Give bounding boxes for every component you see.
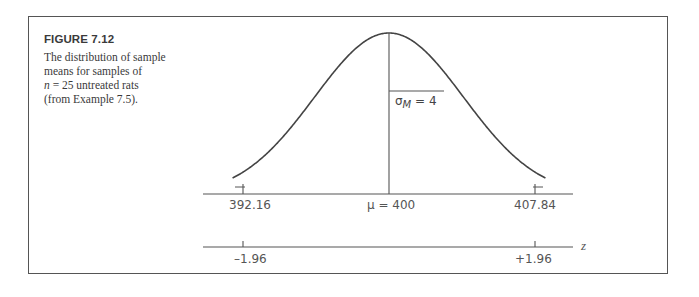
normal-distribution-plot xyxy=(0,0,699,297)
sigma-label: σM = 4 xyxy=(395,94,437,110)
z-right-label: +1.96 xyxy=(515,252,552,266)
z-axis-label: z xyxy=(581,238,586,254)
z-left-label: –1.96 xyxy=(234,252,267,266)
left-value-label: 392.16 xyxy=(229,198,271,212)
sigma-symbol: σ xyxy=(395,94,403,108)
sigma-subscript: M xyxy=(403,99,412,110)
mean-label: μ = 400 xyxy=(367,198,415,212)
right-value-label: 407.84 xyxy=(514,198,556,212)
sigma-value: = 4 xyxy=(411,94,436,108)
